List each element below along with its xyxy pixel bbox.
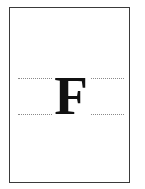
serif-letter: F: [53, 68, 89, 123]
